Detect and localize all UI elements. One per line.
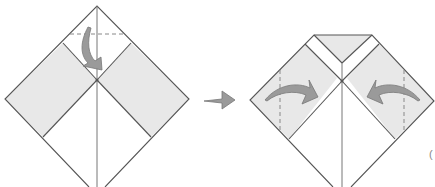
left-shaded-band [5, 43, 97, 137]
next-step-arrow-icon [204, 91, 235, 109]
fold-down-arrow-icon [82, 27, 102, 70]
folded-top-triangle [314, 35, 372, 63]
origami-diagram [0, 0, 435, 187]
step-b-figure [250, 35, 434, 187]
step-a-figure [5, 6, 189, 187]
right-shaded-band [97, 43, 189, 137]
center-point [341, 80, 344, 83]
center-point [96, 79, 99, 82]
partial-step-label: ( [429, 148, 433, 160]
